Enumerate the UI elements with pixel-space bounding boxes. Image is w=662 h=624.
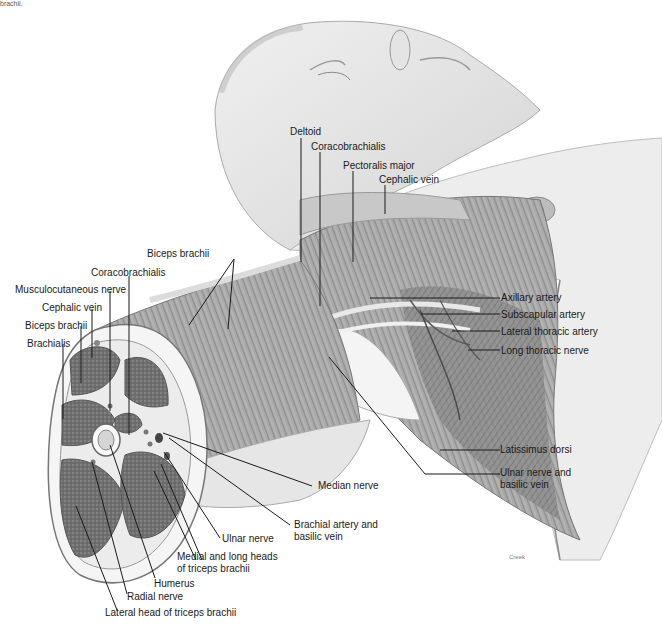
artist-credit: Creek [509,554,525,560]
label-humerus: Humerus [154,578,195,590]
label-brachialis: Brachialis [27,338,70,350]
label-lateral-thoracic-artery: Lateral thoracic artery [501,326,598,338]
label-biceps-brachii-left: Biceps brachii [25,320,87,332]
arm-cross-section [48,324,207,582]
label-brachial-artery-basilic-vein: Brachial artery and basilic vein [294,519,378,543]
label-cephalic-vein-left: Cephalic vein [42,302,102,314]
label-musculocutaneous-nerve: Musculocutaneous nerve [15,284,126,296]
label-radial-nerve: Radial nerve [127,591,183,603]
label-biceps-brachii-top: Biceps brachii [147,248,209,260]
label-long-thoracic-nerve: Long thoracic nerve [501,345,589,357]
label-coracobrachialis-top: Coracobrachialis [311,141,385,153]
label-coracobrachialis-left: Coracobrachialis [91,267,165,279]
label-subscapular-artery: Subscapular artery [501,309,585,321]
label-cephalic-vein-top: Cephalic vein [379,174,439,186]
label-lateral-head-triceps: Lateral head of triceps brachii [105,607,236,619]
label-pectoralis-major: Pectoralis major [343,160,415,172]
label-ulnar-nerve: Ulnar nerve [222,533,274,545]
anatomy-figure: brachii. [0,0,662,624]
label-latissimus-dorsi: Latissimus dorsi [500,444,572,456]
label-axillary-artery: Axillary artery [501,292,562,304]
label-median-nerve: Median nerve [318,480,379,492]
label-deltoid: Deltoid [290,126,321,138]
label-medial-long-heads-triceps: Medial and long heads of triceps brachii [177,551,278,575]
label-ulnar-nerve-basilic-vein: Ulnar nerve and basilic vein [500,467,571,491]
